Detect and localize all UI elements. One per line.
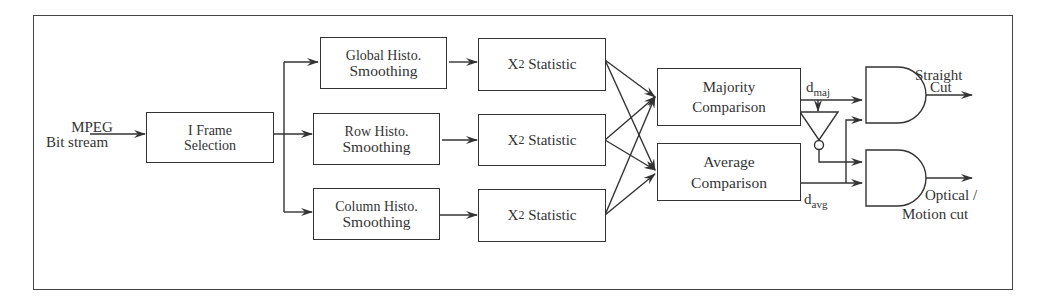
- not-gate-icon: [800, 112, 838, 140]
- input-line1: MPEG: [62, 120, 122, 135]
- d-maj-sub: maj: [814, 86, 831, 98]
- chi-symbol: X: [508, 208, 519, 223]
- chi-square-box-2: X2 Statistic: [478, 114, 606, 166]
- d-avg-sub: avg: [812, 198, 828, 210]
- edge-davg-and-top: [846, 120, 862, 183]
- row-line2: Smoothing: [342, 139, 410, 154]
- input-label: MPEG: [62, 120, 122, 135]
- chi-exponent: 2: [518, 57, 524, 72]
- row-line1: Row Histo.: [345, 124, 409, 139]
- shot-detection-diagram: MPEG Bit stream I Frame Selection Global…: [0, 0, 1048, 307]
- average-line1: Average: [703, 151, 754, 172]
- chi-exponent: 2: [518, 133, 524, 148]
- chi-symbol: X: [508, 57, 519, 72]
- average-comparison-box: Average Comparison: [657, 143, 801, 201]
- straight-cut-label-2: Cut: [930, 80, 952, 95]
- chi-symbol: X: [508, 133, 519, 148]
- optical-line1: Optical /: [925, 187, 977, 203]
- d-maj-base: d: [806, 79, 814, 95]
- d-maj-label: dmaj: [806, 80, 830, 100]
- d-avg-base: d: [804, 191, 812, 207]
- chi-square-box-1: X2 Statistic: [478, 38, 606, 91]
- chi-text: Statistic: [528, 57, 576, 72]
- input-line2: Bit stream: [46, 135, 108, 150]
- row-histo-box: Row Histo. Smoothing: [313, 113, 440, 165]
- chi-square-box-3: X2 Statistic: [478, 189, 606, 242]
- chi-exponent: 2: [518, 208, 524, 223]
- iframe-line2: Selection: [184, 138, 236, 153]
- majority-line1: Majority: [703, 77, 756, 97]
- optical-label-2: Motion cut: [902, 207, 968, 222]
- majority-line2: Comparison: [692, 97, 765, 117]
- edge-not-and-bottom: [819, 150, 862, 162]
- input-label-2: Bit stream: [46, 135, 108, 150]
- not-bubble: [815, 141, 824, 150]
- optical-line2: Motion cut: [902, 206, 968, 222]
- iframe-line1: I Frame: [188, 123, 232, 138]
- global-histo-box: Global Histo. Smoothing: [320, 37, 447, 89]
- column-line1: Column Histo.: [335, 199, 417, 214]
- global-line2: Smoothing: [349, 63, 417, 78]
- optical-label-1: Optical /: [925, 188, 977, 203]
- global-line1: Global Histo.: [346, 48, 421, 63]
- straight-line2: Cut: [930, 79, 952, 95]
- majority-comparison-box: Majority Comparison: [657, 68, 801, 126]
- average-line2: Comparison: [691, 172, 767, 193]
- iframe-selection-box: I Frame Selection: [146, 112, 274, 163]
- chi-text: Statistic: [528, 133, 576, 148]
- column-line2: Smoothing: [342, 214, 410, 229]
- and-gate-bottom-icon: [866, 150, 926, 206]
- chi-text: Statistic: [528, 208, 576, 223]
- column-histo-box: Column Histo. Smoothing: [313, 188, 440, 240]
- d-avg-label: davg: [804, 192, 827, 212]
